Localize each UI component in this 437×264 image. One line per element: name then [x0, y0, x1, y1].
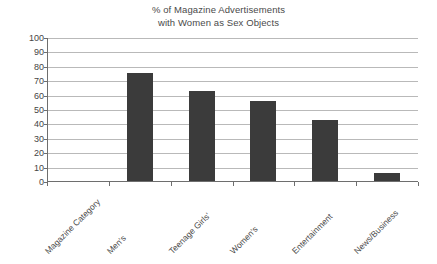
plot-frame: [47, 38, 418, 182]
y-axis-tick-label: 80: [4, 63, 44, 72]
bar-chart: % of Magazine Advertisements with Women …: [0, 0, 437, 264]
y-axis-tick-label: 90: [4, 48, 44, 57]
chart-title-line-1: % of Magazine Advertisements: [0, 4, 437, 17]
x-axis-label-news-business: News/Business: [352, 208, 400, 256]
y-axis-tick-label: 70: [4, 77, 44, 86]
x-axis-title: Magazine Category: [43, 197, 102, 256]
y-axis-tick-label: 60: [4, 92, 44, 101]
y-axis-tick-label: 10: [4, 164, 44, 173]
y-axis-tick-label: 20: [4, 149, 44, 158]
y-axis-tick-label: 50: [4, 106, 44, 115]
plot-area: [47, 38, 418, 182]
chart-title-line-2: with Women as Sex Objects: [0, 17, 437, 30]
x-axis-label-men-s: Men's: [105, 233, 128, 256]
x-axis-label-teenage-girls: Teenage Girls': [167, 211, 212, 256]
y-axis-tick-label: 30: [4, 135, 44, 144]
x-axis-labels: Magazine CategoryMen'sTeenage Girls'Wome…: [0, 182, 437, 264]
y-axis-tick-label: 100: [4, 34, 44, 43]
x-axis-label-entertainment: Entertainment: [290, 212, 334, 256]
x-axis-label-women-s: Women's: [228, 224, 260, 256]
y-axis-tick-label: 40: [4, 120, 44, 129]
chart-title: % of Magazine Advertisements with Women …: [0, 4, 437, 29]
y-axis: 1009080706050403020100: [0, 38, 44, 182]
